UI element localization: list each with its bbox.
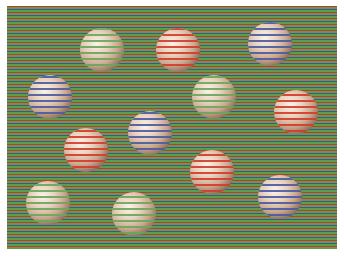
sphere-green — [192, 75, 236, 119]
sphere-stripes — [28, 75, 72, 119]
sphere-red — [64, 128, 108, 172]
sphere-stripes — [64, 128, 108, 172]
sphere-green — [112, 192, 156, 236]
sphere-red — [156, 28, 200, 72]
sphere-red — [274, 90, 318, 134]
sphere-blue — [248, 22, 292, 66]
sphere-blue — [258, 175, 302, 219]
sphere-stripes — [192, 75, 236, 119]
sphere-green — [80, 28, 124, 72]
sphere-stripes — [274, 90, 318, 134]
sphere-stripes — [156, 28, 200, 72]
sphere-blue — [128, 111, 172, 155]
sphere-green — [26, 181, 70, 225]
sphere-red — [190, 150, 234, 194]
sphere-blue — [28, 75, 72, 119]
sphere-stripes — [190, 150, 234, 194]
sphere-stripes — [80, 28, 124, 72]
sphere-stripes — [258, 175, 302, 219]
sphere-stripes — [26, 181, 70, 225]
sphere-stripes — [128, 111, 172, 155]
sphere-stripes — [112, 192, 156, 236]
illusion-canvas — [7, 6, 337, 249]
sphere-stripes — [248, 22, 292, 66]
